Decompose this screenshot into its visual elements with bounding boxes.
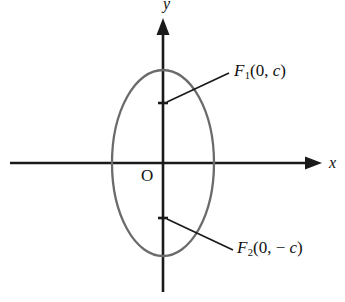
- x-axis-label: x: [329, 155, 336, 171]
- focus2-label-separator: ,: [267, 238, 276, 257]
- focus2-label-minus-sign: −: [276, 238, 290, 257]
- ellipse-foci-figure: y x O F1(0, c) F2(0, − c): [0, 0, 345, 302]
- focus2-label-x-value: 0: [259, 238, 268, 257]
- y-axis-label: y: [163, 0, 170, 12]
- focus2-label-close-paren: ): [297, 238, 303, 257]
- focus1-label: F1(0, c): [234, 62, 286, 81]
- focus1-label-x-value: 0: [256, 61, 265, 80]
- focus2-leader-line: [167, 219, 233, 250]
- y-axis-arrowhead: [157, 18, 170, 35]
- focus2-label-letter: F: [237, 238, 247, 257]
- x-axis-arrowhead: [305, 157, 322, 170]
- origin-label: O: [141, 167, 153, 184]
- focus1-label-close-paren: ): [280, 61, 286, 80]
- focus2-label: F2(0, − c): [237, 239, 303, 258]
- focus2-label-y-value: c: [290, 238, 298, 257]
- focus1-label-separator: ,: [264, 61, 273, 80]
- focus1-label-letter: F: [234, 61, 244, 80]
